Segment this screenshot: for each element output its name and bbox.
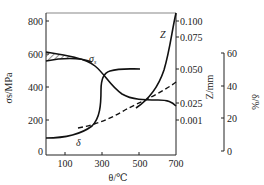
tick-400: 400 (28, 82, 43, 93)
delta-label: δ (76, 137, 81, 148)
tick-0: 0 (38, 146, 43, 157)
dtick-20: 20 (227, 113, 237, 124)
xtick-300: 300 (95, 158, 110, 169)
ztick-0.050: 0.050 (180, 64, 203, 75)
ztick-0.100: 0.100 (180, 16, 203, 27)
ztick-0.025: 0.025 (180, 98, 203, 109)
xtick-700: 700 (169, 158, 184, 169)
z-label: Z (160, 29, 166, 40)
right-axis-z: 0.100 0.075 0.050 0.025 0.001 Z/mm (176, 16, 215, 126)
sigma-s-label: σs (89, 53, 97, 65)
delta-axis-label: δ/% (250, 94, 261, 110)
tick-600: 600 (28, 49, 43, 60)
delta-curve (46, 69, 140, 138)
z-axis-label: Z/mm (204, 75, 215, 100)
dtick-40: 40 (227, 81, 237, 92)
ztick-0.075: 0.075 (180, 32, 203, 43)
x-axis-label: θ/℃ (109, 172, 128, 183)
chart: 800 600 400 200 0 σs/MPa 100 300 500 700… (0, 0, 264, 185)
dtick-60: 60 (227, 48, 237, 59)
sigma-s-curve (46, 52, 176, 106)
right-axis-delta: 60 40 20 0 δ/% (221, 48, 261, 157)
x-axis: 100 300 500 700 θ/℃ (58, 152, 184, 183)
left-axis-label: σs/MPa (3, 72, 14, 104)
xtick-100: 100 (58, 158, 73, 169)
dtick-0: 0 (227, 146, 232, 157)
tick-800: 800 (28, 16, 43, 27)
tick-200: 200 (28, 115, 43, 126)
z-curve (136, 13, 176, 108)
xtick-500: 500 (133, 158, 148, 169)
dashed-curve (78, 82, 176, 128)
ztick-0.001: 0.001 (180, 115, 203, 126)
left-axis: 800 600 400 200 0 σs/MPa (3, 16, 49, 158)
